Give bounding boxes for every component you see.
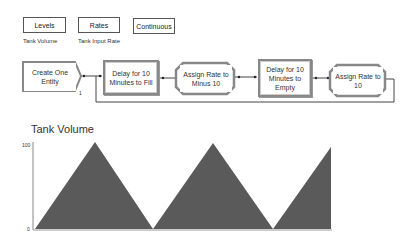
tank-volume-plot	[0, 0, 412, 243]
